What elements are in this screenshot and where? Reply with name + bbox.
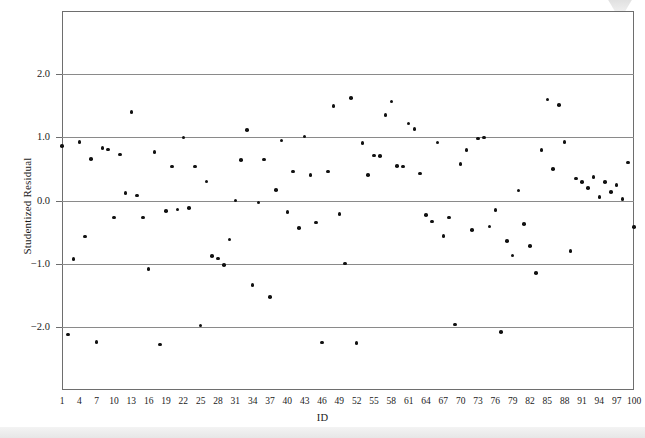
data-point: [361, 141, 365, 145]
data-point: [505, 239, 509, 243]
y-tick-label: −2.0: [16, 322, 50, 332]
data-point: [603, 180, 607, 184]
data-point: [164, 209, 168, 213]
data-point: [609, 190, 613, 194]
gridline-y-0.0: [62, 201, 634, 202]
y-tick-mark: [56, 74, 62, 75]
data-point: [586, 186, 590, 190]
data-point: [442, 234, 446, 238]
data-point: [286, 210, 290, 214]
data-point: [540, 148, 544, 152]
data-point: [170, 165, 174, 169]
data-point: [453, 323, 457, 327]
data-point: [470, 228, 474, 232]
y-tick-mark: [56, 264, 62, 265]
gridline-y-2.0: [62, 74, 634, 75]
data-point: [239, 158, 243, 162]
data-point: [153, 150, 157, 154]
data-point: [147, 267, 151, 271]
data-point: [268, 295, 272, 299]
data-point: [418, 172, 422, 176]
data-point: [534, 271, 538, 275]
data-point: [141, 216, 145, 220]
data-point: [424, 213, 428, 217]
gridline-y--2.0: [62, 327, 634, 328]
data-point: [580, 180, 584, 184]
data-point: [245, 128, 249, 132]
data-point: [222, 263, 226, 267]
data-point: [465, 148, 469, 152]
data-point: [563, 140, 567, 144]
x-axis-title: ID: [0, 412, 645, 423]
data-point: [130, 110, 134, 114]
data-point: [378, 154, 382, 158]
data-point: [522, 222, 526, 226]
data-point: [112, 216, 116, 220]
data-point: [557, 103, 561, 107]
data-point: [401, 165, 405, 169]
data-point: [551, 167, 555, 171]
data-point: [78, 140, 82, 144]
data-point: [332, 104, 336, 108]
data-point: [106, 148, 110, 152]
data-point: [60, 144, 64, 148]
data-point: [291, 170, 295, 174]
data-point: [598, 195, 602, 199]
gridline-y--1.0: [62, 264, 634, 265]
data-point: [89, 157, 93, 161]
scatter-plot-figure: 2.01.00.0−1.0−2.0 1471013161922252831343…: [0, 0, 645, 438]
data-point: [297, 226, 301, 230]
data-point: [349, 96, 353, 100]
gridline-y-1.0: [62, 137, 634, 138]
data-point: [482, 136, 486, 140]
data-point: [135, 194, 139, 198]
data-point: [326, 170, 330, 174]
y-axis-title: Studentized Residual: [21, 111, 33, 301]
data-point: [338, 212, 342, 216]
data-point: [499, 330, 503, 334]
data-point: [193, 165, 197, 169]
data-point: [118, 153, 122, 157]
data-point: [274, 188, 278, 192]
x-tick-label: 100: [622, 396, 645, 406]
data-point: [494, 208, 498, 212]
data-point: [413, 127, 417, 131]
data-point: [632, 225, 636, 229]
data-point: [101, 146, 105, 150]
data-point: [210, 254, 214, 258]
data-point: [187, 206, 191, 210]
data-point: [528, 244, 532, 248]
y-tick-mark: [56, 201, 62, 202]
y-tick-label: 2.0: [16, 69, 50, 79]
data-point: [66, 333, 70, 337]
y-tick-mark: [56, 327, 62, 328]
data-point: [615, 183, 619, 187]
data-point: [430, 220, 434, 224]
data-point: [574, 177, 578, 181]
data-point: [366, 173, 370, 177]
data-point: [569, 249, 573, 253]
data-point: [395, 164, 399, 168]
y-tick-mark: [56, 137, 62, 138]
caption-bar: [0, 427, 645, 438]
data-point: [124, 191, 128, 195]
